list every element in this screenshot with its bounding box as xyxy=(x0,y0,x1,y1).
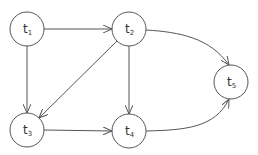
edge-t4-t5 xyxy=(146,99,229,131)
node-t3: t3 xyxy=(10,113,44,147)
node-t4: t4 xyxy=(112,114,146,148)
node-t5: t5 xyxy=(214,65,248,99)
node-t5-subscript: 5 xyxy=(232,82,236,90)
node-t4-subscript: 4 xyxy=(130,131,135,139)
edge-t2-t3 xyxy=(39,41,117,118)
graph-canvas: t1 t2 t3 t4 t5 xyxy=(0,0,258,155)
edge-t3-t4 xyxy=(44,130,112,131)
task-dependency-graph: t1 t2 t3 t4 t5 xyxy=(0,0,258,155)
edge-t2-t5 xyxy=(146,30,229,65)
node-t3-subscript: 3 xyxy=(28,130,32,138)
node-t2-subscript: 2 xyxy=(130,29,134,37)
node-t1-subscript: 1 xyxy=(28,29,32,37)
node-t1: t1 xyxy=(10,12,44,46)
node-t2: t2 xyxy=(112,12,146,46)
